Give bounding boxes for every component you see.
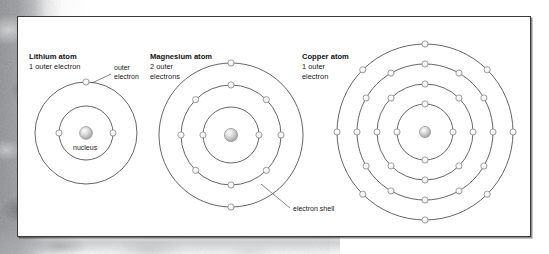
callout-label-electron-shell-line1: electron shell <box>293 205 335 212</box>
electron-copper-s4-e7 <box>422 217 428 223</box>
electron-lithium-s1-e1 <box>56 130 62 136</box>
electron-copper-s3-e6 <box>481 95 487 101</box>
callout-label-nucleus-line1: nucleus <box>73 144 98 151</box>
electron-copper-s3-e5 <box>456 70 462 76</box>
atom-diagram-svg: Lithium atom1 outer electronMagnesium at… <box>18 17 532 238</box>
electron-copper-s4-e3 <box>422 41 428 47</box>
electron-copper-s4-e1 <box>334 129 340 135</box>
electron-copper-s3-e9 <box>456 188 462 194</box>
electron-copper-s3-e4 <box>422 61 428 67</box>
atom-title-lithium: Lithium atom <box>29 52 77 61</box>
callout-nucleus: nucleus <box>73 144 98 151</box>
atom-group-copper: Copper atom1 outerelectron <box>302 41 516 223</box>
atom-subtitle-lithium: 1 outer electron <box>29 62 80 71</box>
electron-magnesium-s1-e1 <box>200 132 206 138</box>
electron-magnesium-s2-e5 <box>278 132 284 138</box>
electron-copper-s1-e2 <box>422 101 428 107</box>
nucleus-copper <box>419 126 430 137</box>
atom-group-magnesium: Magnesium atom2 outerelectrons <box>150 52 303 210</box>
electron-copper-s3-e3 <box>388 70 394 76</box>
callout-label-outer-electron-line2: electron <box>114 73 139 80</box>
electron-magnesium-s2-e2 <box>193 97 199 103</box>
electron-magnesium-s2-e1 <box>178 132 184 138</box>
electron-copper-s3-e8 <box>481 163 487 169</box>
electron-copper-s4-e6 <box>484 191 490 197</box>
atom-subtitle-magnesium-line2: electrons <box>150 72 180 81</box>
electron-copper-s2-e3 <box>422 81 428 87</box>
electron-copper-s3-e11 <box>388 188 394 194</box>
electron-magnesium-s2-e6 <box>263 167 269 173</box>
electron-lithium-s1-e2 <box>110 130 116 136</box>
electron-copper-s4-e4 <box>484 67 490 73</box>
electron-copper-s3-e7 <box>490 129 496 135</box>
electron-copper-s2-e1 <box>374 129 380 135</box>
electron-copper-s2-e2 <box>388 95 394 101</box>
atoms-layer: Lithium atom1 outer electronMagnesium at… <box>29 41 516 223</box>
electron-copper-s2-e5 <box>470 129 476 135</box>
electron-copper-s1-e4 <box>422 157 428 163</box>
atom-group-lithium: Lithium atom1 outer electron <box>29 52 137 184</box>
callout-leader-outer-electron <box>92 74 111 83</box>
atom-subtitle-copper-line1: 1 outer <box>302 62 326 71</box>
electron-copper-s4-e5 <box>510 129 516 135</box>
electron-copper-s3-e12 <box>363 163 369 169</box>
electron-magnesium-s2-e7 <box>228 182 234 188</box>
electron-copper-s1-e1 <box>394 129 400 135</box>
nucleus-lithium <box>80 127 93 140</box>
electron-copper-s3-e10 <box>422 197 428 203</box>
callout-outer-electron: outerelectron <box>92 64 139 83</box>
nucleus-magnesium <box>224 128 237 141</box>
electron-copper-s4-e2 <box>360 67 366 73</box>
electron-magnesium-s2-e3 <box>228 82 234 88</box>
electron-magnesium-s3-e2 <box>228 204 234 210</box>
electron-magnesium-s2-e8 <box>193 167 199 173</box>
figure-panel: Lithium atom1 outer electronMagnesium at… <box>17 16 531 237</box>
electron-copper-s1-e3 <box>450 129 456 135</box>
electron-copper-s2-e4 <box>456 95 462 101</box>
electron-copper-s3-e1 <box>354 129 360 135</box>
electron-copper-s4-e8 <box>360 191 366 197</box>
electron-magnesium-s2-e4 <box>263 97 269 103</box>
callout-label-outer-electron-line1: outer <box>114 64 131 71</box>
atom-title-magnesium: Magnesium atom <box>150 52 212 61</box>
electron-copper-s3-e2 <box>363 95 369 101</box>
callout-electron-shell: electron shell <box>261 184 335 212</box>
atom-subtitle-magnesium-line1: 2 outer <box>150 62 174 71</box>
electron-magnesium-s3-e1 <box>228 60 234 66</box>
electron-copper-s2-e8 <box>388 163 394 169</box>
atom-title-copper: Copper atom <box>302 52 349 61</box>
atom-subtitle-copper-line2: electron <box>302 72 328 81</box>
electron-lithium-s2-e1 <box>83 79 89 85</box>
callout-leader-electron-shell <box>261 184 290 208</box>
electron-copper-s2-e7 <box>422 177 428 183</box>
electron-copper-s2-e6 <box>456 163 462 169</box>
electron-magnesium-s1-e2 <box>256 132 262 138</box>
